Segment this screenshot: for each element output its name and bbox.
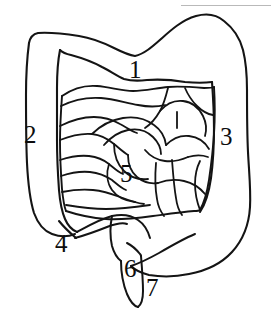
- right-loop-g: [195, 161, 200, 210]
- field-left-border: [60, 96, 66, 211]
- field-top-border: [62, 86, 214, 96]
- small-intestine-loops-center: [92, 117, 188, 202]
- small-intestine-field-border: [60, 86, 215, 219]
- label-3-descending-colon: 3: [220, 124, 233, 149]
- sigmoid-lower-sweep: [131, 234, 195, 266]
- center-loop-b: [104, 129, 161, 154]
- label-6-cecum: 6: [124, 256, 137, 281]
- center-loop-a: [92, 117, 166, 145]
- large-intestine-drawing: [0, 0, 271, 332]
- label-5-small-intestine: 5: [120, 161, 133, 186]
- label-1-transverse-colon: 1: [129, 57, 142, 82]
- scan-artifact-line: [181, 5, 271, 6]
- right-loop-d: [166, 136, 209, 149]
- anatomy-figure: 1 2 3 4 5 6 7: [0, 0, 271, 332]
- right-loop-f: [158, 180, 205, 194]
- cecum-left-wall: [75, 223, 127, 238]
- ileum-descending-left: [155, 163, 164, 216]
- label-4-cecum-left: 4: [55, 231, 68, 256]
- label-2-ascending-colon: 2: [24, 122, 37, 147]
- label-7-appendix: 7: [146, 275, 159, 300]
- loop-coil-3: [60, 134, 128, 155]
- loop-coil-7: [66, 205, 150, 209]
- right-loop-e: [188, 156, 208, 158]
- ileum-descending-right: [172, 160, 182, 215]
- loop-coil-5: [61, 172, 126, 190]
- right-loop-c: [160, 101, 206, 136]
- loop-coil-1: [61, 98, 165, 107]
- center-loop-f: [145, 150, 188, 161]
- loop-coil-4: [60, 156, 123, 174]
